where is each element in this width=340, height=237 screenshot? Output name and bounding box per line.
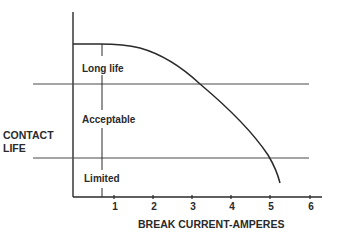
x-tick-label-2: 2	[151, 201, 157, 212]
x-tick-label-5: 5	[268, 201, 274, 212]
chart-root: Long life Acceptable Limited CONTACT LIF…	[0, 0, 340, 237]
x-tick-label-3: 3	[190, 201, 196, 212]
x-tick-label-4: 4	[229, 201, 235, 212]
x-axis-label: BREAK CURRENT-AMPERES	[138, 218, 284, 230]
x-tick-label-6: 6	[308, 201, 314, 212]
region-label-acceptable: Acceptable	[82, 114, 135, 125]
y-axis-label-line2: LIFE	[3, 142, 54, 155]
region-label-long-life: Long life	[82, 63, 124, 74]
x-tick-label-1: 1	[112, 201, 118, 212]
chart-canvas	[0, 0, 340, 237]
region-label-limited: Limited	[84, 173, 120, 184]
y-axis-label: CONTACT LIFE	[3, 129, 54, 155]
y-axis-label-line1: CONTACT	[3, 129, 54, 142]
